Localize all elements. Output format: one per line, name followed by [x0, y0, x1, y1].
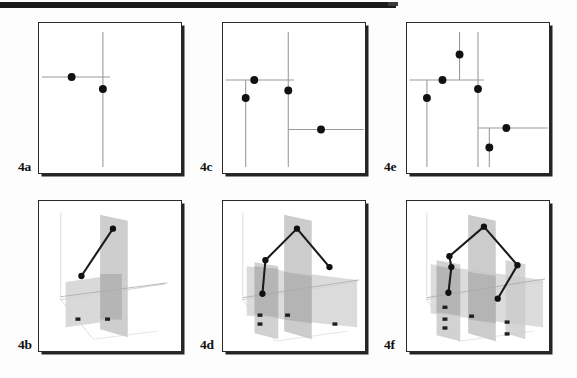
- top-rule-taper: [388, 2, 398, 6]
- panel-4e: [406, 22, 550, 174]
- top-rule: [0, 2, 396, 8]
- panel-4c: [222, 22, 366, 174]
- data-point: [502, 124, 510, 132]
- panel-4c-plot: [223, 23, 365, 173]
- panel-4d: [222, 200, 366, 352]
- data-point: [439, 76, 447, 84]
- data-point: [242, 94, 250, 102]
- data-point: [262, 257, 268, 263]
- data-point: [284, 87, 292, 95]
- data-point: [259, 291, 265, 297]
- panel-4d-plot: [223, 201, 365, 351]
- panel-label-4a: 4a: [18, 160, 31, 174]
- data-point: [514, 262, 520, 268]
- planes: [431, 215, 543, 341]
- data-point: [456, 51, 464, 59]
- data-point: [495, 296, 501, 302]
- panel-4f: [406, 200, 550, 352]
- data-point: [294, 225, 300, 231]
- panel-4f-plot: [407, 201, 549, 351]
- panel-4e-plot: [407, 23, 549, 173]
- data-point: [423, 94, 431, 102]
- panel-label-4f: 4f: [384, 338, 395, 352]
- data-point: [481, 224, 487, 230]
- panel-label-4c: 4c: [200, 160, 212, 174]
- data-point: [250, 76, 258, 84]
- data-point: [474, 85, 482, 93]
- data-point: [99, 85, 107, 93]
- data-point: [446, 253, 452, 259]
- panel-label-4b: 4b: [18, 338, 32, 352]
- figure-root: 4a 4c 4e: [0, 0, 577, 378]
- panel-label-4d: 4d: [200, 338, 214, 352]
- data-point: [68, 73, 76, 81]
- data-point: [448, 264, 454, 270]
- panel-4a-plot: [39, 23, 181, 173]
- data-point: [110, 225, 116, 231]
- panel-4b: [38, 200, 182, 352]
- data-point: [326, 264, 332, 270]
- data-point: [78, 273, 84, 279]
- data-point: [445, 290, 451, 296]
- panel-4b-plot: [39, 201, 181, 351]
- data-point: [317, 126, 325, 134]
- panel-label-4e: 4e: [384, 160, 396, 174]
- planes: [66, 215, 128, 337]
- panel-4a: [38, 22, 182, 174]
- data-point: [485, 144, 493, 152]
